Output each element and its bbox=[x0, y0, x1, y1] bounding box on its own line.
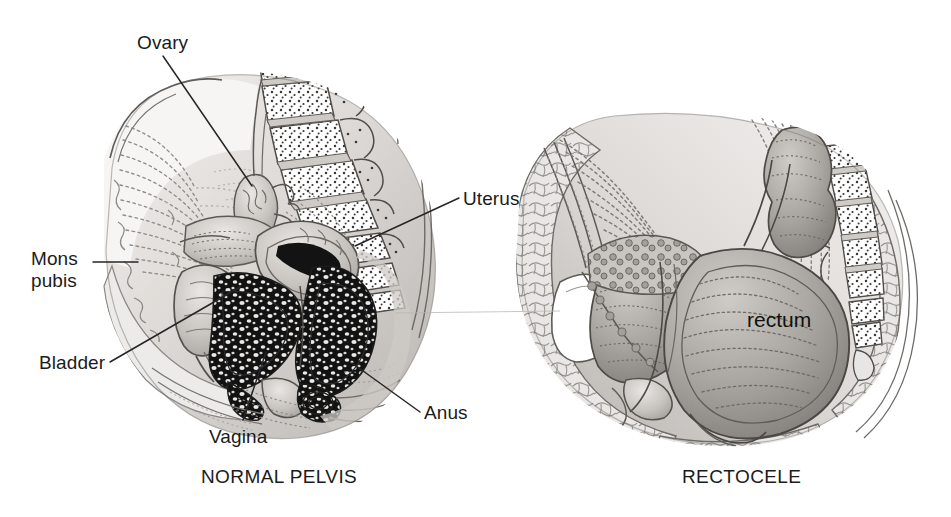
label-rectum: rectum bbox=[747, 308, 811, 332]
label-mons-pubis: Mons pubis bbox=[31, 248, 78, 292]
normal-pelvis-illustration bbox=[104, 42, 435, 439]
label-uterus: Uterus bbox=[463, 188, 520, 209]
prolapsed-uterus-structure bbox=[764, 125, 836, 258]
label-ovary: Ovary bbox=[137, 32, 188, 53]
label-vagina: Vagina bbox=[209, 426, 267, 447]
caption-rectocele: RECTOCELE bbox=[682, 466, 801, 488]
label-anus: Anus bbox=[424, 402, 468, 423]
pelvic-anatomy-figure: Ovary Mons pubis Bladder Vagina Uterus A… bbox=[0, 0, 951, 517]
caption-normal-pelvis: NORMAL PELVIS bbox=[201, 466, 357, 488]
label-bladder: Bladder bbox=[39, 352, 105, 373]
rectocele-illustration bbox=[516, 113, 918, 462]
anatomy-artwork bbox=[0, 0, 951, 517]
